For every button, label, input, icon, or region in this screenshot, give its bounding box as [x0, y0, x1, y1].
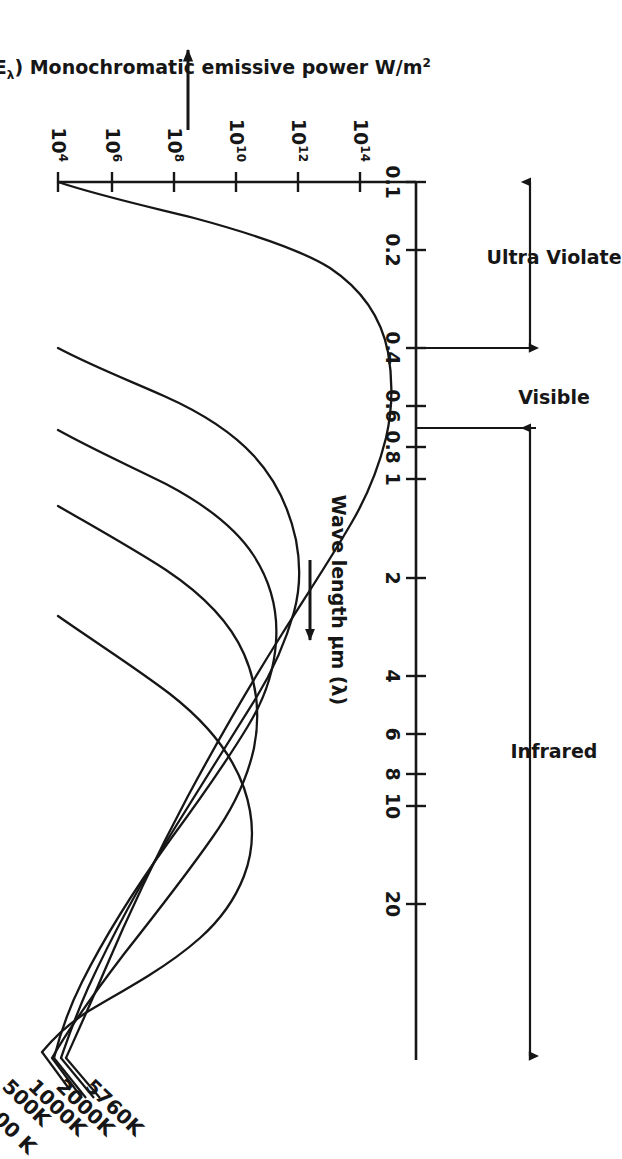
- y-tick-exponent: 10: [234, 145, 248, 162]
- y-axis-title-prefix: (E: [0, 56, 7, 78]
- y-tick-label: 108: [165, 127, 184, 162]
- y-axis-title-rest: ) Monochromatic emissive power W/m: [14, 56, 422, 78]
- y-tick-base: 10: [350, 119, 372, 145]
- x-tick-label: 0.1: [383, 165, 402, 199]
- curve-500k: [52, 506, 257, 1058]
- y-tick-label: 106: [103, 127, 122, 162]
- x-tick-label: 0.4: [383, 331, 402, 365]
- band-label-visible: Visible: [518, 388, 590, 407]
- y-tick-label: 104: [49, 127, 68, 162]
- y-tick-base: 10: [48, 127, 70, 153]
- band-label-ultra-violate: Ultra Violate: [486, 248, 621, 267]
- x-tick-label: 0.6: [383, 389, 402, 423]
- y-tick-label: 1012: [289, 119, 308, 162]
- y-tick-label: 1010: [227, 119, 246, 162]
- y-tick-exponent: 4: [56, 154, 70, 162]
- y-tick-base: 10: [288, 119, 310, 145]
- y-tick-exponent: 6: [110, 154, 124, 162]
- x-tick-label: 4: [383, 669, 402, 682]
- x-tick-label: 10: [383, 793, 402, 819]
- band-label-infrared: Infrared: [511, 742, 598, 761]
- y-axis-title-superscript: 2: [423, 56, 431, 70]
- x-axis-title: Wave length µm (λ): [329, 495, 348, 706]
- x-tick-label: 8: [383, 767, 402, 780]
- y-tick-exponent: 8: [172, 154, 186, 162]
- y-tick-exponent: 12: [296, 145, 310, 162]
- x-tick-label: 6: [383, 727, 402, 740]
- x-tick-label: 0.8: [383, 430, 402, 464]
- x-tick-label: 2: [383, 571, 402, 584]
- y-tick-exponent: 14: [358, 145, 372, 162]
- x-tick-label: 0.2: [383, 233, 402, 267]
- x-tick-label: 1: [383, 472, 402, 485]
- x-tick-label: 20: [383, 891, 402, 917]
- curve-2000k: [58, 348, 299, 1058]
- y-tick-base: 10: [102, 127, 124, 153]
- y-axis-title: (Eλ) Monochromatic emissive power W/m2: [0, 58, 431, 77]
- y-tick-base: 10: [226, 119, 248, 145]
- curve-300k: [42, 616, 252, 1052]
- y-tick-label: 1014: [351, 119, 370, 162]
- y-tick-base: 10: [164, 127, 186, 153]
